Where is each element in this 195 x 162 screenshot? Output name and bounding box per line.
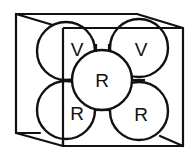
label-top-right: V [135, 39, 148, 60]
label-top-left: V [71, 39, 84, 60]
label-bottom-left: R [70, 103, 84, 124]
label-center: R [95, 70, 109, 91]
label-bottom-right: R [134, 104, 148, 125]
unit-cell-diagram: V V R R R [0, 0, 195, 162]
cube-with-spheres: V V R R R [0, 0, 195, 162]
depth-edge-bottom-right [160, 136, 183, 146]
